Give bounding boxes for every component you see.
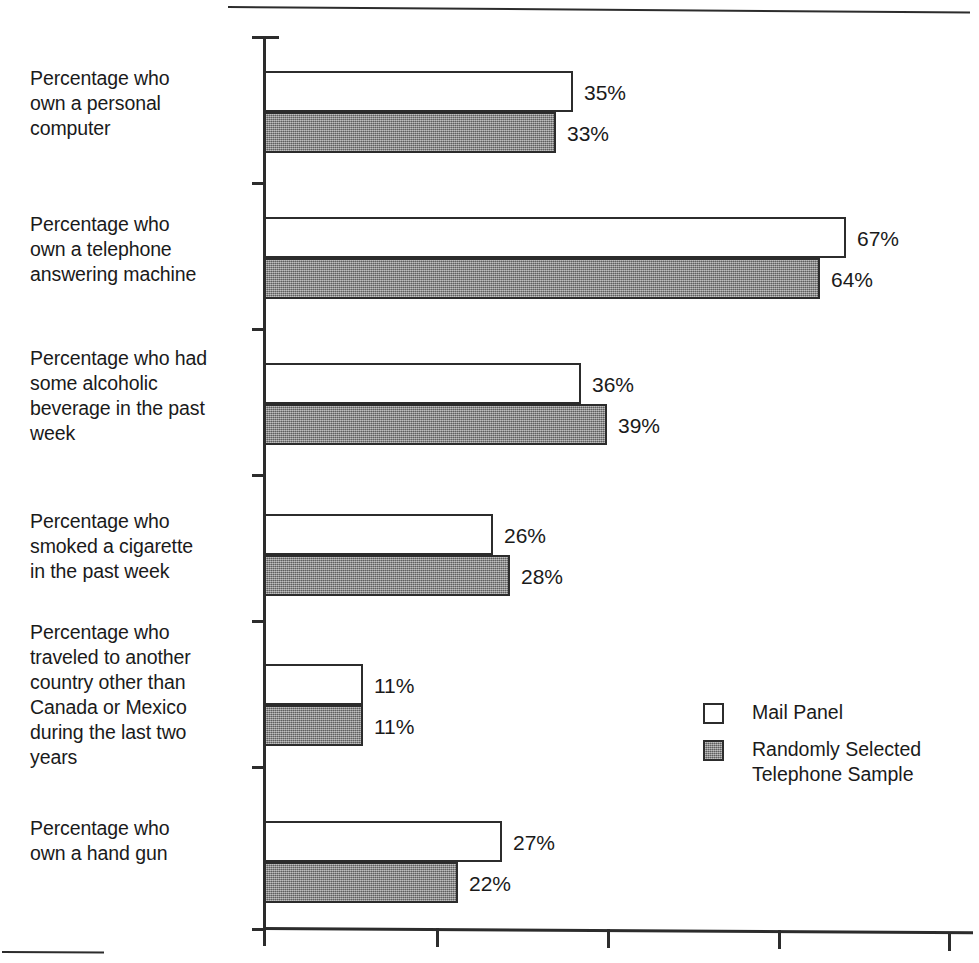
category-label-line: in the past week [30,559,258,584]
bar-value-telephone-sample: 22% [469,873,511,894]
category-label-line: some alcoholic [30,371,258,396]
category-label-personal-computer: Percentage who own a personal computer [30,66,258,141]
category-label-hand-gun: Percentage who own a hand gun [30,816,258,866]
category-label-line: own a personal [30,91,258,116]
category-label-cigarette: Percentage who smoked a cigarette in the… [30,509,258,584]
category-label-line: answering machine [30,262,258,287]
category-label-line: traveled to another [30,645,258,670]
category-label-line: Percentage who [30,66,258,91]
legend-swatch-telephone-sample-icon [703,740,724,761]
legend-label-line: Randomly Selected [752,737,921,762]
bar-mail-panel[interactable] [264,217,846,258]
x-axis-tick-3 [778,930,781,949]
category-label-line: Percentage who [30,212,258,237]
category-label-alcoholic-beverage: Percentage who had some alcoholic bevera… [30,346,258,446]
bar-telephone-sample[interactable] [264,112,556,153]
category-label-line: Percentage who [30,816,258,841]
bar-telephone-sample[interactable] [264,862,458,903]
y-axis-tick-0 [252,36,264,39]
bar-telephone-sample[interactable] [264,705,363,746]
bar-mail-panel[interactable] [264,514,493,555]
bar-value-mail-panel: 35% [584,82,626,103]
category-label-line: Percentage who had [30,346,258,371]
bar-mail-panel[interactable] [264,664,363,705]
x-axis-tick-1 [436,928,439,947]
bar-mail-panel[interactable] [264,71,573,112]
category-label-answering-machine: Percentage who own a telephone answering… [30,212,258,287]
category-label-line: years [30,745,258,770]
grouped-bar-chart: Percentage who own a personal computer 3… [0,0,979,963]
legend-label-telephone-sample: Randomly Selected Telephone Sample [752,737,921,787]
category-label-line: smoked a cigarette [30,534,258,559]
category-label-line: during the last two [30,720,258,745]
x-axis-line [263,927,973,934]
bar-value-telephone-sample: 11% [374,716,414,737]
category-label-line: country other than [30,670,258,695]
legend-label-mail-panel: Mail Panel [752,700,843,725]
legend-item-mail-panel[interactable]: Mail Panel [703,700,973,725]
y-axis-top-cap [263,36,279,39]
bar-mail-panel[interactable] [264,821,502,862]
category-label-line: week [30,421,258,446]
category-label-line: computer [30,116,258,141]
legend-item-telephone-sample[interactable]: Randomly Selected Telephone Sample [703,737,973,787]
bar-value-telephone-sample: 28% [521,566,563,587]
category-label-line: own a telephone [30,237,258,262]
y-axis-tick-3 [252,474,264,477]
category-label-international-travel: Percentage who traveled to another count… [30,620,258,770]
y-axis-tick-1 [252,182,264,185]
bar-value-mail-panel: 11% [374,675,414,696]
bar-telephone-sample[interactable] [264,404,607,445]
bar-mail-panel[interactable] [264,363,581,404]
y-axis-tick-6 [252,928,264,931]
bar-telephone-sample[interactable] [264,555,510,596]
x-axis-tick-2 [607,929,610,948]
category-label-line: beverage in the past [30,396,258,421]
legend-label-line: Telephone Sample [752,762,921,787]
bar-value-mail-panel: 27% [513,832,555,853]
y-axis-line [263,36,266,930]
category-label-line: Percentage who [30,509,258,534]
category-label-line: own a hand gun [30,841,258,866]
y-axis-tick-2 [252,328,264,331]
x-axis-tick-4 [948,932,951,951]
bar-value-mail-panel: 36% [592,374,634,395]
bar-telephone-sample[interactable] [264,258,820,299]
bar-value-telephone-sample: 64% [831,269,873,290]
bar-value-mail-panel: 67% [857,228,899,249]
bar-value-telephone-sample: 33% [567,123,609,144]
category-label-line: Percentage who [30,620,258,645]
category-label-line: Canada or Mexico [30,695,258,720]
chart-legend: Mail Panel Randomly Selected Telephone S… [703,700,973,799]
legend-swatch-mail-panel-icon [703,703,724,724]
bar-value-telephone-sample: 39% [618,415,660,436]
bar-value-mail-panel: 26% [504,525,546,546]
